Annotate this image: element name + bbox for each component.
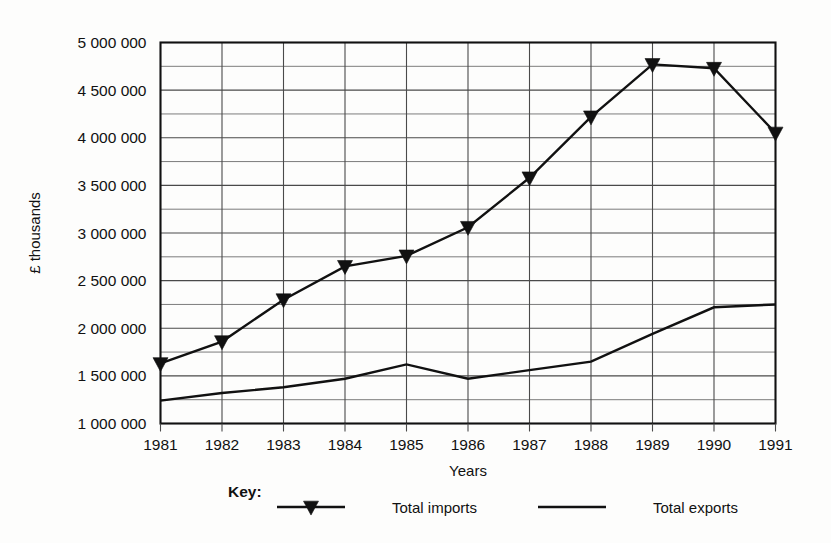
- x-axis-tick-label: 1985: [389, 436, 423, 453]
- x-axis-tick-label: 1983: [266, 436, 300, 453]
- x-axis-tick-label: 1984: [328, 436, 363, 453]
- y-axis-tick-labels: 5 000 0004 500 0004 000 0003 500 0003 00…: [78, 34, 147, 432]
- x-axis-tick-label: 1990: [697, 436, 732, 453]
- y-axis-tick-label: 3 000 000: [78, 225, 147, 242]
- triangle-down-icon: [522, 172, 537, 186]
- x-axis-tick-labels: 1981198219831984198519861987198819891990…: [143, 424, 792, 453]
- y-axis-tick-label: 2 500 000: [78, 272, 147, 289]
- x-axis-tick-label: 1991: [758, 436, 792, 453]
- y-axis-tick-label: 1 000 000: [78, 415, 147, 432]
- y-axis-tick-label: 4 500 000: [78, 82, 147, 99]
- x-axis-tick-label: 1989: [635, 436, 669, 453]
- x-axis-tick-label: 1982: [205, 436, 239, 453]
- y-axis-tick-label: 4 000 000: [78, 129, 147, 146]
- chart-figure: 5 000 0004 500 0004 000 0003 500 0003 00…: [0, 0, 831, 543]
- triangle-down-icon: [276, 294, 291, 308]
- line-chart: 5 000 0004 500 0004 000 0003 500 0003 00…: [0, 0, 831, 543]
- chart-legend: Key: Total imports Total exports: [228, 483, 738, 516]
- x-axis-tick-label: 1988: [574, 436, 608, 453]
- y-axis-tick-label: 5 000 000: [78, 34, 147, 51]
- y-axis-tick-label: 3 500 000: [78, 177, 147, 194]
- triangle-down-icon: [153, 358, 168, 372]
- legend-label-imports: Total imports: [392, 499, 477, 516]
- x-axis-tick-label: 1987: [512, 436, 546, 453]
- triangle-down-icon: [338, 260, 353, 274]
- x-axis-tick-label: 1986: [451, 436, 485, 453]
- triangle-down-icon: [768, 127, 783, 141]
- x-axis-tick-label: 1981: [143, 436, 177, 453]
- y-axis-title: £ thousands: [26, 192, 43, 274]
- legend-label-exports: Total exports: [653, 499, 738, 516]
- legend-title: Key:: [228, 483, 262, 500]
- y-axis-tick-label: 2 000 000: [78, 320, 147, 337]
- y-axis-tick-label: 1 500 000: [78, 367, 147, 384]
- x-axis-title: Years: [449, 462, 487, 479]
